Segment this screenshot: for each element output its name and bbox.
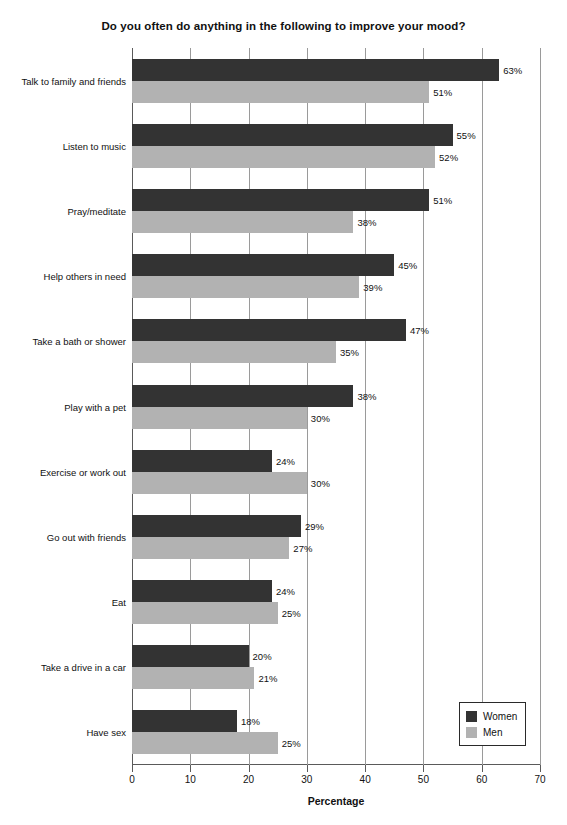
category-label: Pray/meditate — [0, 205, 126, 216]
category-label: Take a bath or shower — [0, 336, 126, 347]
bar-men — [132, 602, 278, 624]
bar-value-label: 27% — [289, 542, 312, 553]
bar-men — [132, 211, 353, 233]
bar-women — [132, 710, 237, 732]
bar-women — [132, 189, 429, 211]
bar-women — [132, 254, 394, 276]
x-axis-tick-label: 40 — [360, 774, 371, 785]
bar-value-label: 63% — [499, 64, 522, 75]
bar-men — [132, 146, 435, 168]
bar-value-label: 38% — [353, 216, 376, 227]
category-axis-labels: Talk to family and friendsListen to musi… — [0, 48, 126, 765]
bar-women — [132, 59, 499, 81]
legend: Women Men — [459, 702, 526, 746]
bar-value-label: 55% — [453, 129, 476, 140]
bar-women — [132, 515, 301, 537]
bar-value-label: 25% — [278, 608, 301, 619]
x-axis-tick — [540, 765, 541, 772]
bar-women — [132, 124, 453, 146]
bar-value-label: 24% — [272, 586, 295, 597]
category-label: Exercise or work out — [0, 466, 126, 477]
bar-men — [132, 732, 278, 754]
bar-men — [132, 276, 359, 298]
bar-value-label: 18% — [237, 716, 260, 727]
bar-value-label: 30% — [307, 477, 330, 488]
bar-value-label: 29% — [301, 520, 324, 531]
x-axis-tick — [190, 765, 191, 772]
bar-value-label: 45% — [394, 260, 417, 271]
x-axis-tick-label: 20 — [243, 774, 254, 785]
bar-value-label: 35% — [336, 347, 359, 358]
bar-value-label: 25% — [278, 738, 301, 749]
legend-item-men: Men — [466, 724, 517, 740]
bar-women — [132, 319, 406, 341]
x-axis-tick — [249, 765, 250, 772]
bar-value-label: 47% — [406, 325, 429, 336]
category-label: Go out with friends — [0, 531, 126, 542]
x-axis-tick — [482, 765, 483, 772]
bar-women — [132, 580, 272, 602]
bar-men — [132, 537, 289, 559]
gridline — [540, 48, 541, 765]
bar-value-label: 52% — [435, 151, 458, 162]
bar-value-label: 38% — [353, 390, 376, 401]
category-label: Play with a pet — [0, 401, 126, 412]
bar-value-label: 20% — [249, 651, 272, 662]
bar-men — [132, 472, 307, 494]
legend-swatch-men-icon — [466, 727, 477, 738]
bar-women — [132, 450, 272, 472]
x-axis-tick-label: 10 — [185, 774, 196, 785]
category-label: Have sex — [0, 727, 126, 738]
chart-title: Do you often do anything in the followin… — [0, 20, 567, 32]
x-axis-tick-label: 50 — [418, 774, 429, 785]
category-label: Take a drive in a car — [0, 662, 126, 673]
legend-swatch-women-icon — [466, 711, 477, 722]
bar-value-label: 24% — [272, 455, 295, 466]
bar-value-label: 51% — [429, 194, 452, 205]
category-label: Eat — [0, 597, 126, 608]
x-axis-tick-label: 30 — [301, 774, 312, 785]
legend-label-men: Men — [483, 727, 502, 738]
x-axis-tick — [423, 765, 424, 772]
bar-value-label: 51% — [429, 86, 452, 97]
x-axis-title: Percentage — [132, 795, 540, 807]
category-label: Listen to music — [0, 140, 126, 151]
plot-area: 01020304050607063%51%55%52%51%38%45%39%4… — [132, 48, 540, 765]
gridline — [482, 48, 483, 765]
bar-value-label: 30% — [307, 412, 330, 423]
x-axis-tick-label: 0 — [129, 774, 135, 785]
bar-value-label: 21% — [254, 673, 277, 684]
bar-men — [132, 667, 254, 689]
bar-women — [132, 645, 249, 667]
bar-women — [132, 385, 353, 407]
bar-men — [132, 407, 307, 429]
bar-men — [132, 81, 429, 103]
x-axis-tick — [307, 765, 308, 772]
x-axis-tick — [132, 765, 133, 772]
chart-container: Do you often do anything in the followin… — [0, 0, 567, 825]
legend-label-women: Women — [483, 711, 517, 722]
bar-men — [132, 341, 336, 363]
category-label: Help others in need — [0, 271, 126, 282]
x-axis-tick-label: 70 — [534, 774, 545, 785]
category-label: Talk to family and friends — [0, 75, 126, 86]
bar-value-label: 39% — [359, 282, 382, 293]
x-axis-tick-label: 60 — [476, 774, 487, 785]
legend-item-women: Women — [466, 708, 517, 724]
x-axis-tick — [365, 765, 366, 772]
